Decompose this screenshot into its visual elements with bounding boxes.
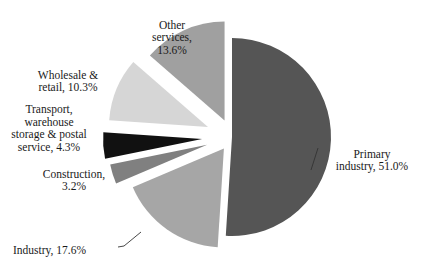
slice-label-line: services, [152, 31, 192, 44]
slice-label-line: 3.2% [62, 180, 86, 192]
slice-label-line: Construction, [43, 168, 105, 181]
slice-label: Wholesale &retail, 10.3% [38, 69, 98, 95]
slice-label: Construction,3.2% [43, 168, 105, 193]
slice-label-line: storage & postal [11, 128, 86, 141]
slice-label-line: retail, 10.3% [38, 81, 97, 94]
slice-label-line: 13.6% [157, 44, 187, 56]
slice-label-line: Primary [353, 148, 390, 161]
pie-slice-primary-industry [226, 38, 331, 236]
slice-label-line: Other [159, 19, 185, 31]
slice-label-line: Transport, [25, 103, 72, 116]
slice-label: Industry, 17.6% [13, 244, 86, 257]
slice-label-line: industry, 51.0% [336, 160, 409, 173]
pie-chart: Primaryindustry, 51.0%Industry, 17.6%Con… [0, 0, 422, 270]
slice-label: Otherservices,13.6% [152, 19, 192, 56]
leader-line [118, 232, 141, 247]
slice-label: Transport,warehousestorage & postalservi… [11, 103, 86, 154]
slice-label-line: warehouse [24, 116, 73, 128]
slice-label-line: service, 4.3% [18, 141, 81, 154]
pie-slices [103, 22, 331, 248]
pie-slice-transport-warehouse-storage-postal-service [103, 132, 202, 159]
slice-label-line: Industry, 17.6% [13, 244, 86, 257]
slice-label-line: Wholesale & [38, 69, 98, 81]
slice-label: Primaryindustry, 51.0% [336, 148, 409, 174]
